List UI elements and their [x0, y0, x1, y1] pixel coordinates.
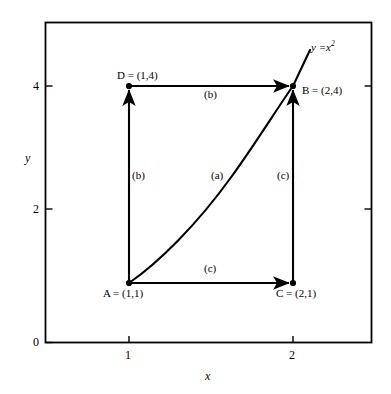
- point-label-A: A = (1,1): [103, 288, 143, 299]
- segment-label-c-bottom: (c): [204, 263, 216, 274]
- y-axis-ticks-right: [365, 86, 372, 209]
- frame-rect: [46, 23, 372, 343]
- segment-label-a: (a): [211, 170, 223, 181]
- vertex-dots: [126, 83, 296, 286]
- x-tick-label-2: 2: [289, 349, 295, 361]
- point-C-dot: [290, 280, 296, 286]
- figure-canvas: 4 2 0 1 2 y x D = (1,4) B = (2,4) A = (1…: [0, 0, 391, 394]
- curve-equation-label: y =x2: [311, 42, 335, 53]
- y-tick-label-2: 2: [33, 203, 39, 215]
- x-axis-title: x: [205, 370, 210, 382]
- x-tick-label-1: 1: [125, 349, 131, 361]
- segment-label-b-top: (b): [204, 89, 217, 100]
- x-axis-ticks: [129, 336, 293, 343]
- y-tick-label-0: 0: [33, 336, 39, 348]
- point-label-C: C = (2,1): [276, 288, 316, 299]
- point-label-B: B = (2,4): [302, 85, 342, 96]
- point-B-dot: [290, 83, 296, 89]
- point-D-dot: [126, 83, 132, 89]
- y-tick-label-4: 4: [33, 80, 39, 92]
- y-axis-title: y: [25, 152, 30, 164]
- segment-label-b-left: (b): [132, 170, 145, 181]
- axes-frame: [46, 23, 372, 343]
- curve-equation-lhs: y =: [311, 41, 326, 53]
- y-axis-ticks: [46, 86, 53, 343]
- curve-equation-exponent: 2: [331, 39, 335, 48]
- point-label-D: D = (1,4): [117, 70, 158, 81]
- segment-label-c-right: (c): [277, 170, 289, 181]
- plot-svg: [0, 0, 391, 394]
- point-A-dot: [126, 280, 132, 286]
